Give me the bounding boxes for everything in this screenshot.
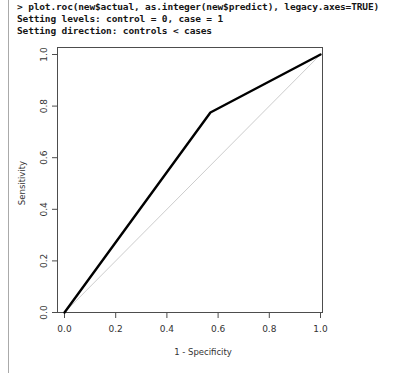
y-axis-tick-labels: 1.0 0.8 0.6 0.4 0.2 0.0 [39,47,49,320]
x-tick-label-0.2: 0.2 [109,324,123,334]
x-tick-label-0.8: 0.8 [262,324,277,334]
y-tick-label-0.2: 0.2 [39,254,49,268]
y-tick-label-0.4: 0.4 [39,202,49,217]
series-layer [65,55,321,313]
chance-diagonal-line [65,55,321,313]
x-tick-label-1.0: 1.0 [313,324,328,334]
x-tick-label-0.4: 0.4 [160,324,175,334]
roc-plot-svg: 1.0 0.8 0.6 0.4 0.2 0.0 Sensitivity 0.0 [0,0,407,373]
y-tick-label-0.6: 0.6 [39,150,49,165]
x-axis-ticks [65,313,321,319]
y-tick-label-0.8: 0.8 [39,99,49,114]
x-axis-title: 1 - Specificity [174,347,232,357]
y-axis-ticks [52,55,58,313]
screenshot-root: > plot.roc(new$actual, as.integer(new$pr… [0,0,407,373]
roc-plot: 1.0 0.8 0.6 0.4 0.2 0.0 Sensitivity 0.0 [0,0,407,373]
x-tick-label-0.0: 0.0 [57,324,72,334]
x-tick-label-0.6: 0.6 [211,324,226,334]
y-tick-label-0.0: 0.0 [39,305,49,320]
plot-frame [58,48,323,313]
y-axis-title: Sensitivity [17,161,27,205]
x-axis-tick-labels: 0.0 0.2 0.4 0.6 0.8 1.0 [57,324,328,334]
y-tick-label-1.0: 1.0 [39,47,49,62]
